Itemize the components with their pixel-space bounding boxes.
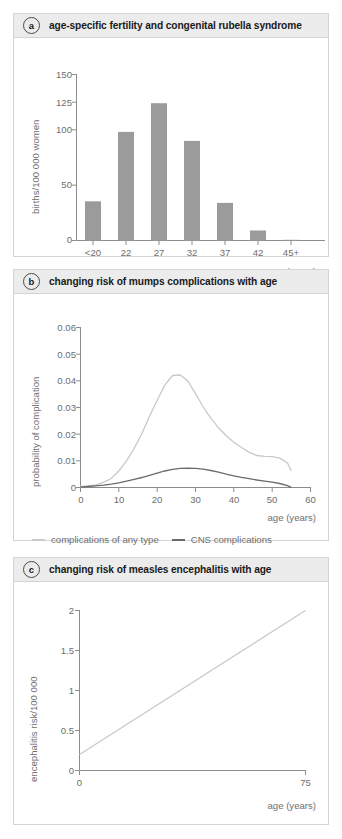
bar-5 [250,231,266,241]
panel-b-xtick-50: 50 [252,494,292,505]
series-encephalitis-risk [80,611,306,755]
bar-1 [118,132,134,241]
panel-a-body: births/100 000 women 150 125 100 50 0 [14,38,328,256]
panel-b-xtick-10: 10 [99,494,139,505]
panel-b-xtick-0: 0 [61,494,101,505]
panel-a-plot [14,38,330,256]
figure-container: a age-specific fertility and congenital … [0,0,342,839]
panel-b-x-axis-title: age (years) [267,512,316,523]
panel-b-xtick-20: 20 [137,494,177,505]
panel-c-header: c changing risk of measles encephalitis … [14,558,328,582]
panel-c-xtick-0: 0 [60,777,100,788]
legend-label-cns: CNS complications [191,534,272,545]
panel-c-x-axis-title: age (years) [267,800,316,811]
panel-a-badge: a [23,17,40,34]
panel-c-xtick-75: 75 [286,777,326,788]
panel-a-title: age-specific fertility and congenital ru… [49,20,302,31]
legend-swatch-cns [172,539,185,541]
panel-b: b changing risk of mumps complications w… [13,269,329,541]
panel-a-bars [85,103,299,240]
legend-swatch-any-type [32,539,45,541]
legend-label-any-type: complications of any type [51,534,159,545]
panel-b-legend: complications of any type CNS complicati… [32,534,272,545]
panel-c: c changing risk of measles encephalitis … [13,557,329,825]
panel-a-xtick-6: 45+ [271,247,311,258]
bar-6 [283,240,299,241]
legend-item-any-type: complications of any type [32,534,159,545]
panel-b-header: b changing risk of mumps complications w… [14,270,328,294]
panel-b-xtick-60: 60 [291,494,331,505]
panel-b-xtick-30: 30 [176,494,216,505]
panel-b-body: probability of complication 0.06 0.05 0.… [14,294,328,540]
bar-0 [85,201,101,240]
panel-b-xtick-40: 40 [214,494,254,505]
panel-c-title: changing risk of measles encephalitis wi… [49,564,271,575]
legend-item-cns: CNS complications [172,534,272,545]
bar-3 [184,141,200,241]
panel-a-header: a age-specific fertility and congenital … [14,14,328,38]
series-complications-any-type [81,375,292,487]
bar-2 [151,103,167,240]
bar-4 [217,203,233,241]
panel-c-body: encephalitis risk/100 000 2 1.5 1 0.5 0 [14,582,328,824]
panel-b-title: changing risk of mumps complications wit… [49,276,277,287]
panel-a: a age-specific fertility and congenital … [13,13,329,257]
panel-b-badge: b [23,273,40,290]
panel-c-badge: c [23,561,40,578]
